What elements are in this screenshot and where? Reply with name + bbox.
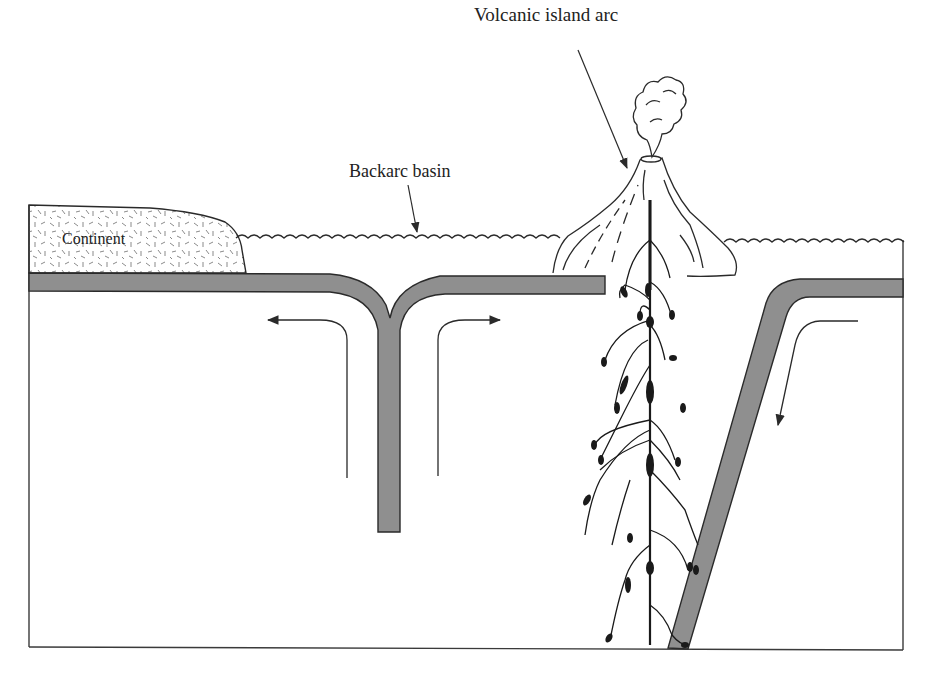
volcanic-island-arc-label: Volcanic island arc	[474, 5, 618, 24]
subduction-backarc-diagram: Volcanic island arc Backarc basin Contin…	[0, 0, 932, 676]
label-pointers	[408, 50, 627, 232]
eruption-cloud	[633, 77, 686, 157]
volcanic-arc-pointer	[578, 50, 627, 168]
backarc-basin-pointer	[408, 185, 417, 232]
volcano	[553, 156, 736, 276]
backarc-plate	[29, 273, 605, 532]
arrow-left-flow	[268, 320, 347, 478]
diagram-canvas	[0, 0, 932, 676]
magma-droplets	[581, 283, 699, 648]
continent-label: Continent	[62, 231, 125, 247]
subducting-slab	[668, 279, 903, 649]
arrow-subduction-flow	[778, 321, 858, 425]
backarc-basin-label: Backarc basin	[349, 162, 450, 180]
arrow-right-flow	[438, 320, 500, 476]
